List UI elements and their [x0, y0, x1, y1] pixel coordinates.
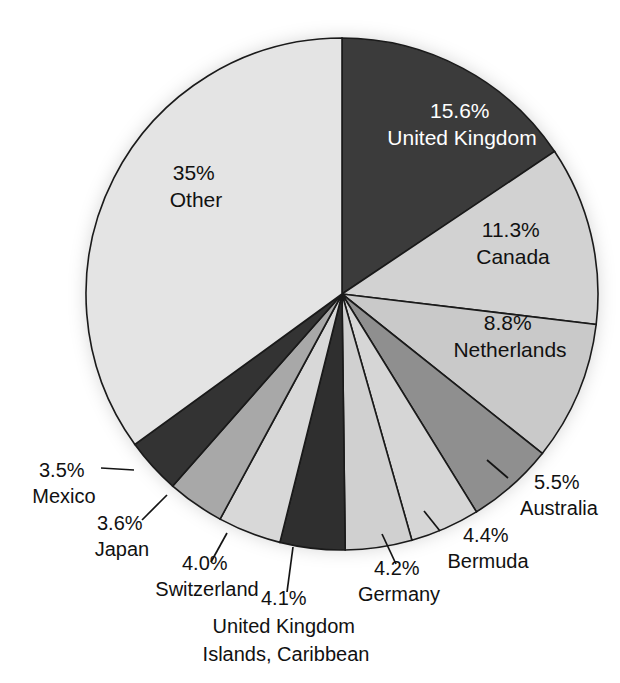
slice-label-australia: 5.5% Australia	[520, 471, 599, 519]
leader-line-uk-islands	[287, 547, 293, 592]
pie-chart-figure: 15.6% United Kingdom 11.3% Canada 8.8% N…	[0, 0, 620, 683]
slice-label-japan: 3.6% Japan	[95, 512, 150, 560]
slice-label-bermuda: 4.4% Bermuda	[447, 524, 529, 572]
slice-label-switzerland: 4.0% Switzerland	[155, 552, 258, 600]
leader-line-mexico	[101, 468, 134, 470]
slice-label-mexico: 3.5% Mexico	[32, 459, 95, 507]
slice-label-germany: 4.2% Germany	[358, 557, 440, 605]
pie-chart-svg: 15.6% United Kingdom 11.3% Canada 8.8% N…	[0, 0, 620, 683]
pie-slices-group	[86, 38, 598, 550]
